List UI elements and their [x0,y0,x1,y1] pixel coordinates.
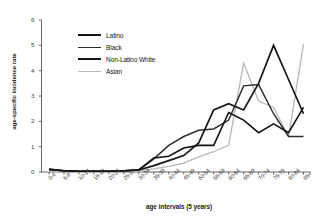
legend-item: Asian [78,65,198,77]
y-tick-label: 4 [23,68,35,74]
y-tick-label: 3 [23,93,35,99]
x-axis-title: age intervals (5 years) [40,203,318,210]
legend-swatch-icon [78,47,101,48]
chart-title [0,0,318,6]
y-tick-label: 0 [23,169,35,175]
legend-swatch-icon [78,58,101,60]
legend-swatch-icon [78,34,101,36]
y-tick-label: 1 [23,144,35,150]
line-chart: age-specific incidence rate age interval… [0,0,318,220]
y-tick-label: 6 [23,17,35,23]
legend-label: Latino [106,32,123,39]
legend-label: Black [106,44,122,51]
y-axis-title: age-specific incidence rate [10,32,17,152]
legend-label: Asian [106,68,122,75]
legend-swatch-icon [78,71,101,72]
legend-item: Non-Latino White [78,53,198,65]
y-tick-label: 5 [23,42,35,48]
chart-legend: LatinoBlackNon-Latino WhiteAsian [78,29,198,77]
legend-item: Black [78,41,198,53]
legend-item: Latino [78,29,198,41]
legend-label: Non-Latino White [106,56,155,63]
y-tick-label: 2 [23,118,35,124]
